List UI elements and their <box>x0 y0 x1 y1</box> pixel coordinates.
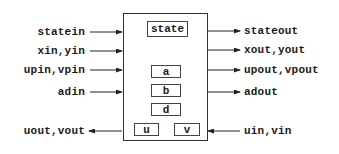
sub-block-v: v <box>174 123 200 136</box>
port-label-uin-vin: uin,vin <box>244 125 292 137</box>
port-label-xin-yin: xin,yin <box>37 45 85 57</box>
sub-block-a: a <box>151 65 181 78</box>
port-label-stateout: stateout <box>244 25 298 37</box>
sub-block-state: state <box>147 21 188 37</box>
port-label-adin: adin <box>58 86 85 98</box>
port-label-upout-vpout: upout,vpout <box>244 64 319 76</box>
sub-block-b: b <box>151 84 181 97</box>
port-label-upin-vpin: upin,vpin <box>24 64 85 76</box>
port-label-adout: adout <box>244 86 278 98</box>
sub-block-d: d <box>151 103 181 116</box>
main-block: state a b d u v <box>123 13 208 141</box>
port-label-uout-vout: uout,vout <box>24 125 85 137</box>
sub-block-u: u <box>134 123 159 136</box>
port-label-xout-yout: xout,yout <box>244 44 305 56</box>
port-label-statein: statein <box>37 26 85 38</box>
